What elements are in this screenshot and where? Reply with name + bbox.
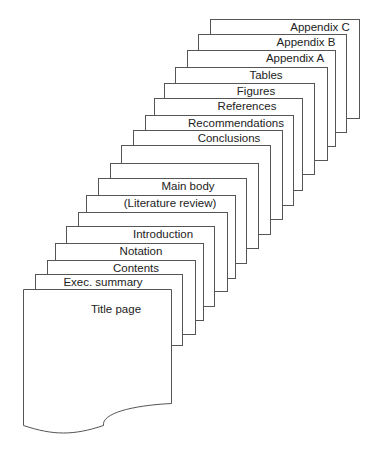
page-label: Conclusions — [198, 132, 261, 144]
page-label: Appendix A — [266, 52, 325, 64]
page-label: Appendix B — [277, 36, 336, 48]
page-label: Notation — [120, 245, 163, 257]
page-label: (Literature review) — [124, 197, 217, 209]
page-label: Figures — [237, 85, 276, 97]
page-label: Tables — [249, 69, 282, 81]
page-label: Main body — [161, 180, 214, 192]
page-label: Title page — [91, 303, 141, 315]
page-label: Introduction — [133, 228, 193, 240]
page-label: Exec. summary — [63, 276, 142, 288]
page-label: References — [218, 100, 277, 112]
page-label: Contents — [113, 262, 159, 274]
report-structure-diagram: Appendix CAppendix BAppendix ATablesFigu… — [0, 0, 376, 449]
page-label: Appendix C — [290, 21, 349, 33]
page-title-page: Title page — [24, 290, 172, 434]
page-label: Recommendations — [188, 117, 284, 129]
